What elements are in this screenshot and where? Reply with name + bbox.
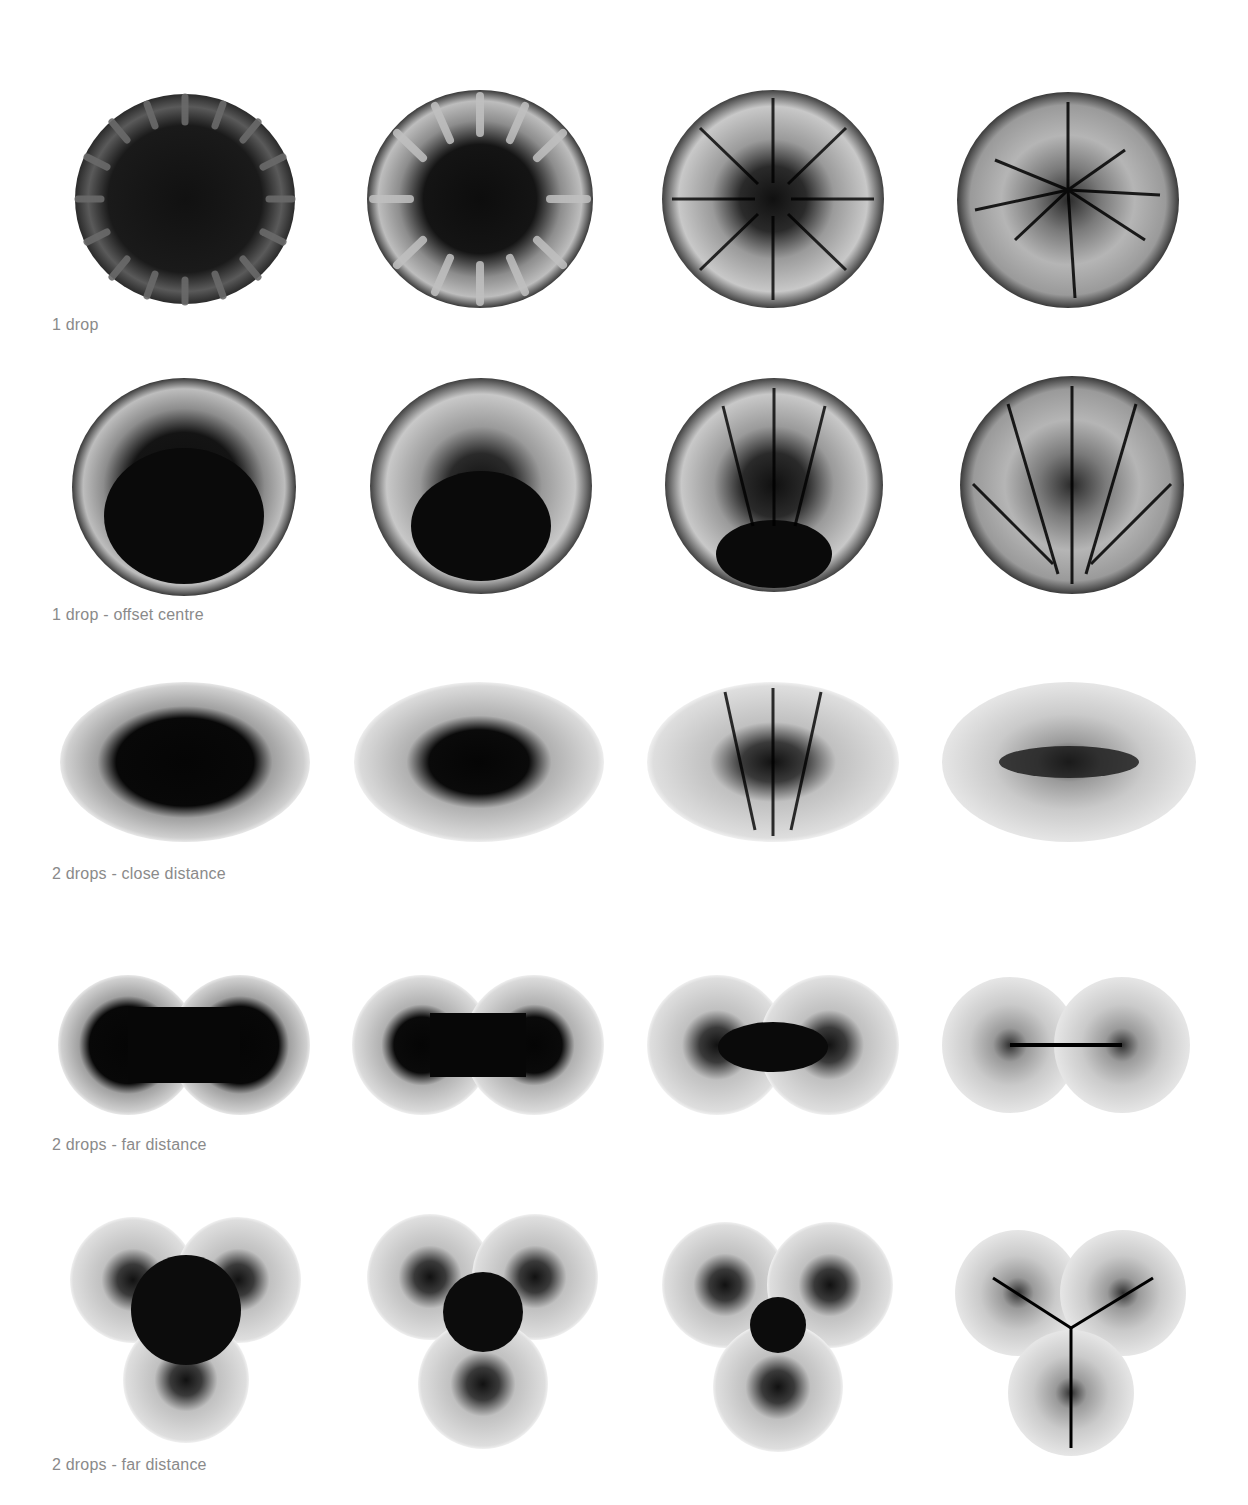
- specimen-row4-stage2: [350, 975, 606, 1115]
- specimen-row1-stage2: [365, 88, 595, 310]
- specimen-row5-stage2: [365, 1212, 601, 1452]
- specimen-row2-stage1: [70, 376, 298, 598]
- specimen-row5-stage4: [953, 1228, 1189, 1460]
- specimen-row1-stage1: [73, 92, 297, 306]
- specimen-row2-stage2: [368, 376, 594, 596]
- specimen-row1-stage3: [660, 88, 886, 310]
- specimen-row4-stage3: [645, 975, 901, 1115]
- specimen-row3-stage3: [645, 680, 901, 844]
- specimen-row4-stage4: [940, 975, 1192, 1115]
- specimen-row5-stage3: [660, 1215, 896, 1455]
- specimen-row1-stage4: [955, 90, 1181, 310]
- specimen-row3-stage2: [352, 680, 606, 844]
- row-caption: 2 drops - far distance: [52, 1136, 207, 1154]
- row-caption: 2 drops - close distance: [52, 865, 226, 883]
- specimen-row4-stage1: [56, 975, 312, 1115]
- specimen-row2-stage3: [663, 376, 885, 594]
- specimen-row3-stage4: [940, 680, 1198, 844]
- row-caption: 1 drop: [52, 316, 99, 334]
- row-caption: 1 drop - offset centre: [52, 606, 204, 624]
- specimen-row2-stage4: [958, 374, 1186, 596]
- row-caption: 2 drops - far distance: [52, 1456, 207, 1474]
- specimen-row3-stage1: [58, 680, 312, 844]
- specimen-row5-stage1: [68, 1215, 304, 1447]
